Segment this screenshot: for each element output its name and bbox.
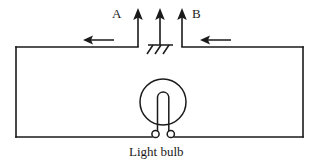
arrow-a-label: A (112, 7, 121, 20)
terminal-right (167, 130, 174, 137)
ground-hatching-icon (147, 45, 173, 54)
arrow-stems (138, 17, 182, 47)
hatching-stroke-1 (147, 45, 153, 54)
light-bulb-icon (140, 79, 186, 138)
arrow-b-label: B (192, 7, 201, 20)
hatching-stroke-2 (155, 45, 161, 54)
terminal-left (152, 130, 159, 137)
light-bulb-label: Light bulb (129, 145, 184, 158)
circuit-diagram (0, 0, 319, 165)
hatching-stroke-3 (163, 45, 169, 54)
figure-canvas: A B Light bulb (0, 0, 319, 165)
circuit-loop (16, 47, 303, 137)
bulb-envelope (140, 79, 186, 125)
